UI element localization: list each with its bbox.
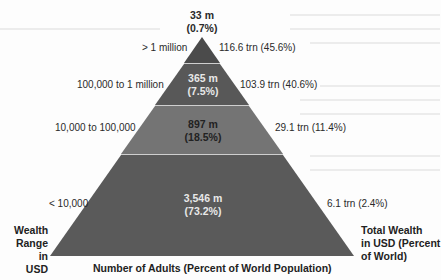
tier-1-adults-pct: (0.7%) [187,22,218,35]
right-axis-label: Total Wealth in USD (Percent of World) [361,224,440,263]
tier-4-adults-label: 3,546 m (73.2%) [184,192,223,218]
right-axis-line: of World) [361,250,440,263]
left-axis-line: Wealth [14,224,48,237]
left-axis-line: Range [14,237,48,250]
tier-3-adults: 897 m [185,118,222,131]
tier-1-over-1m [184,37,220,63]
left-axis-label: Wealth Range in USD [14,224,48,276]
right-axis-line: in USD (Percent [361,237,440,250]
tier-4-wealth-range: < 10,000 [49,198,88,209]
tier-4-adults: 3,546 m [184,192,223,205]
bottom-axis-label: Number of Adults (Percent of World Popul… [93,262,332,275]
tier-2-total-wealth: 103.9 trn (40.6%) [240,79,317,90]
tier-1-adults: 33 m [187,9,218,22]
tier-4-adults-pct: (73.2%) [184,205,223,218]
tier-2-adults: 365 m [188,72,219,85]
right-axis-line: Total Wealth [361,224,440,237]
tier-1-total-wealth: 116.6 trn (45.6%) [219,42,296,53]
tier-2-wealth-range: 100,000 to 1 million [77,79,164,90]
tier-3-total-wealth: 29.1 trn (11.4%) [275,122,346,133]
left-axis-line: in USD [14,250,48,276]
tier-1-wealth-range: > 1 million [142,42,187,53]
tier-3-wealth-range: 10,000 to 100,000 [55,122,136,133]
tier-1-adults-label: 33 m (0.7%) [187,9,218,35]
tier-2-adults-label: 365 m (7.5%) [188,72,219,98]
tier-4-total-wealth: 6.1 trn (2.4%) [327,198,388,209]
tier-3-adults-label: 897 m (18.5%) [185,118,222,144]
tier-2-adults-pct: (7.5%) [188,85,219,98]
tier-3-adults-pct: (18.5%) [185,131,222,144]
